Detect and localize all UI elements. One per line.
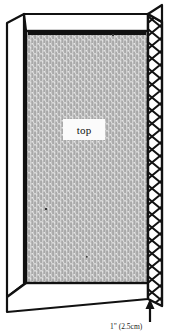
top-flap bbox=[24, 14, 148, 31]
dimension-callout-label: 1" (2.5cm) bbox=[110, 322, 169, 331]
top-surface-label: top bbox=[63, 119, 105, 140]
top-surface bbox=[26, 31, 148, 283]
bottom-flap bbox=[7, 283, 148, 312]
left-flap bbox=[7, 14, 24, 297]
technical-illustration bbox=[0, 0, 169, 332]
mesh-screen-strip bbox=[146, 5, 166, 310]
